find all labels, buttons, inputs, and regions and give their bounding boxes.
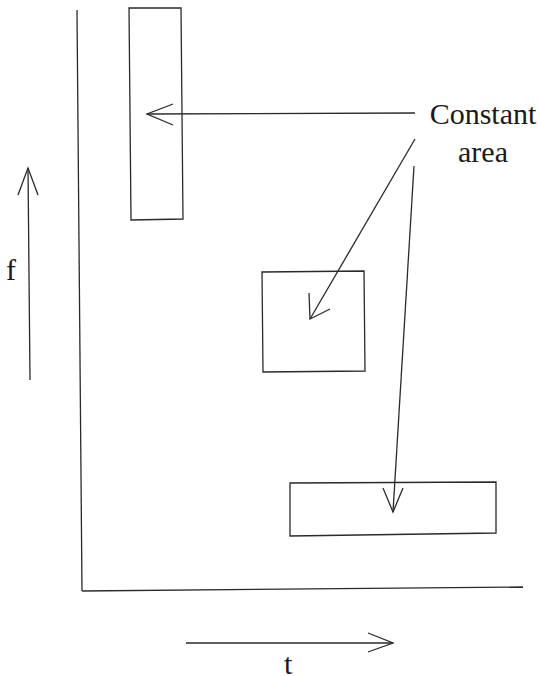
square-tile	[262, 271, 365, 372]
annotation-constant: Constant	[427, 99, 539, 129]
pointer-arrow-wide	[393, 166, 414, 512]
frequency-arrow	[28, 168, 30, 380]
pointer-arrow-tall	[147, 113, 415, 114]
pointer-arrow-square	[310, 139, 415, 319]
annotation-area: area	[427, 137, 539, 167]
vertical-axis	[77, 10, 82, 591]
time-axis-label: t	[284, 649, 292, 676]
horizontal-axis	[82, 587, 523, 591]
frequency-axis-label: f	[6, 255, 16, 285]
